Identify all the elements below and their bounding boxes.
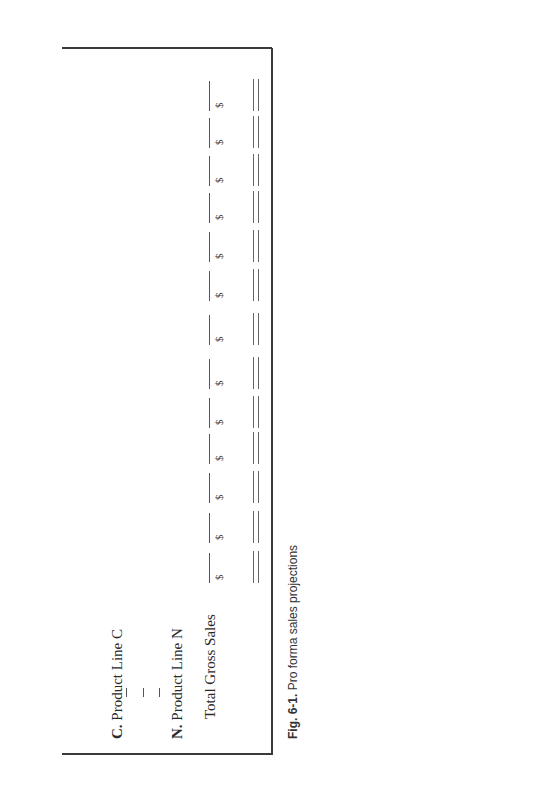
row-product-line-c: C. Product Line C	[110, 629, 125, 739]
column-underline	[209, 553, 210, 583]
column-underline	[209, 271, 210, 301]
total-gross-sales-label: Total Gross Sales	[203, 614, 218, 719]
row-label: Product Line N	[169, 628, 185, 720]
currency-symbol: $	[214, 456, 225, 462]
double-underline-b	[258, 511, 259, 543]
double-underline-a	[253, 154, 254, 186]
currency-symbol: $	[214, 293, 225, 299]
double-underline-a	[253, 79, 254, 111]
ellipsis-dash-1	[126, 688, 127, 697]
column-underline	[209, 473, 210, 503]
column-underline	[209, 232, 210, 262]
double-underline-a	[253, 551, 254, 583]
currency-symbol: $	[214, 420, 225, 426]
double-underline-b	[258, 313, 259, 345]
currency-symbol: $	[214, 535, 225, 541]
row-letter: C.	[109, 724, 125, 739]
column-underline	[209, 513, 210, 543]
column-underline	[209, 81, 210, 111]
column-underline	[209, 434, 210, 464]
currency-symbol: $	[214, 103, 225, 109]
caption-text: Pro forma sales projections	[286, 545, 300, 690]
double-underline-a	[253, 357, 254, 389]
double-underline-a	[253, 116, 254, 148]
double-underline-a	[253, 313, 254, 345]
column-underline	[209, 193, 210, 223]
column-underline	[209, 315, 210, 345]
double-underline-b	[258, 154, 259, 186]
double-underline-b	[258, 551, 259, 583]
double-underline-a	[253, 269, 254, 301]
rotated-page: C. Product Line C N. Product Line N Tota…	[0, 0, 553, 799]
column-underline	[209, 156, 210, 186]
row-product-line-n: N. Product Line N	[170, 628, 185, 739]
double-underline-b	[258, 432, 259, 464]
double-underline-a	[253, 230, 254, 262]
frame-border-right	[271, 48, 273, 755]
double-underline-b	[258, 230, 259, 262]
frame-border-top	[62, 753, 272, 755]
double-underline-b	[258, 471, 259, 503]
double-underline-b	[258, 396, 259, 428]
frame-border-bottom	[62, 47, 272, 49]
currency-symbol: $	[214, 215, 225, 221]
column-underline	[209, 359, 210, 389]
double-underline-a	[253, 471, 254, 503]
double-underline-b	[258, 191, 259, 223]
caption-label: Fig. 6-1.	[286, 694, 300, 739]
double-underline-a	[253, 511, 254, 543]
row-label: Product Line C	[109, 629, 125, 721]
double-underline-a	[253, 432, 254, 464]
currency-symbol: $	[214, 337, 225, 343]
currency-symbol: $	[214, 254, 225, 260]
currency-symbol: $	[214, 140, 225, 146]
double-underline-a	[253, 396, 254, 428]
column-underline	[209, 118, 210, 148]
double-underline-b	[258, 79, 259, 111]
ellipsis-dash-3	[159, 688, 160, 697]
currency-symbol: $	[214, 381, 225, 387]
double-underline-a	[253, 191, 254, 223]
ellipsis-dash-2	[143, 688, 144, 697]
currency-symbol: $	[214, 178, 225, 184]
double-underline-b	[258, 357, 259, 389]
currency-symbol: $	[214, 495, 225, 501]
row-letter: N.	[169, 724, 185, 739]
double-underline-b	[258, 269, 259, 301]
currency-symbol: $	[214, 575, 225, 581]
figure-caption: Fig. 6-1. Pro forma sales projections	[286, 545, 300, 739]
column-underline	[209, 398, 210, 428]
double-underline-b	[258, 116, 259, 148]
